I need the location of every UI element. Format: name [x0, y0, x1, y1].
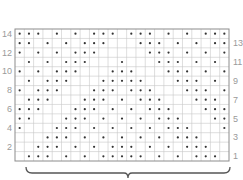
stitch-dot — [112, 146, 114, 148]
stitch-dot — [84, 108, 86, 110]
stitch-dot — [140, 33, 142, 35]
row-label-left: 14 — [2, 29, 12, 39]
stitch-dot — [56, 80, 58, 82]
stitch-dot — [177, 61, 179, 63]
stitch-dot — [186, 70, 188, 72]
stitch-dot — [140, 136, 142, 138]
stitch-dot — [102, 42, 104, 44]
stitch-dot — [19, 127, 21, 129]
stitch-dot — [195, 136, 197, 138]
stitch-dot — [37, 108, 39, 110]
stitch-dot — [84, 117, 86, 119]
stitch-dot — [112, 80, 114, 82]
row-label-left: 10 — [2, 66, 12, 76]
stitch-dot — [186, 51, 188, 53]
stitch-dot — [158, 99, 160, 101]
row-label-right: 13 — [233, 38, 243, 48]
stitch-dot — [84, 42, 86, 44]
stitch-dot — [167, 51, 169, 53]
stitch-dot — [214, 80, 216, 82]
stitch-dot — [158, 108, 160, 110]
stitch-dot — [37, 155, 39, 157]
stitch-dot — [56, 89, 58, 91]
stitch-dot — [167, 33, 169, 35]
stitch-dot — [102, 99, 104, 101]
repeat-brace — [26, 167, 230, 178]
stitch-dot — [177, 117, 179, 119]
stitch-dot — [214, 155, 216, 157]
stitch-dot — [223, 117, 225, 119]
stitch-dot — [205, 51, 207, 53]
stitch-dot — [46, 146, 48, 148]
stitch-dot — [28, 33, 30, 35]
stitch-dot — [19, 42, 21, 44]
stitch-dot — [140, 155, 142, 157]
stitch-dot — [121, 136, 123, 138]
row-label-right: 3 — [233, 132, 238, 142]
stitch-dot — [56, 127, 58, 129]
stitch-dot — [56, 51, 58, 53]
stitch-dot — [37, 89, 39, 91]
stitch-dot — [19, 89, 21, 91]
stitch-dot — [223, 33, 225, 35]
stitch-dot — [205, 89, 207, 91]
stitch-dot — [93, 89, 95, 91]
stitch-dot — [37, 99, 39, 101]
stitch-dot — [28, 61, 30, 63]
stitch-dot — [102, 136, 104, 138]
stitch-dot — [28, 80, 30, 82]
stitch-dot — [56, 146, 58, 148]
stitch-dot — [112, 89, 114, 91]
stitch-dot — [74, 117, 76, 119]
stitch-dot — [195, 80, 197, 82]
stitch-dot — [140, 89, 142, 91]
stitch-dot — [84, 155, 86, 157]
stitch-dot — [149, 33, 151, 35]
stitch-dot — [28, 108, 30, 110]
stitch-dot — [37, 33, 39, 35]
stitch-dot — [93, 127, 95, 129]
row-label-right: 1 — [233, 151, 238, 161]
stitch-dot — [46, 99, 48, 101]
stitch-dot — [214, 99, 216, 101]
stitch-dot — [186, 33, 188, 35]
stitch-dot — [65, 155, 67, 157]
stitch-dot — [112, 33, 114, 35]
stitch-dot — [214, 117, 216, 119]
stitch-dot — [121, 80, 123, 82]
stitch-dot — [149, 99, 151, 101]
stitch-dot — [149, 146, 151, 148]
stitch-dot — [56, 136, 58, 138]
stitch-dot — [74, 127, 76, 129]
stitch-dot — [167, 117, 169, 119]
stitch-dot — [214, 42, 216, 44]
stitch-dot — [214, 61, 216, 63]
stitch-dot — [195, 99, 197, 101]
row-label-left: 8 — [7, 85, 12, 95]
stitch-dot — [19, 51, 21, 53]
stitch-dot — [102, 89, 104, 91]
stitch-dot — [65, 70, 67, 72]
stitch-dot — [65, 117, 67, 119]
row-label-left: 2 — [7, 142, 12, 152]
stitch-dot — [19, 70, 21, 72]
stitch-dot — [112, 108, 114, 110]
stitch-dot — [140, 117, 142, 119]
stitch-dot — [195, 61, 197, 63]
stitch-dot — [130, 127, 132, 129]
stitch-dot — [19, 33, 21, 35]
stitch-dot — [19, 108, 21, 110]
stitch-dot — [65, 80, 67, 82]
stitch-dot — [84, 99, 86, 101]
stitch-dot — [56, 70, 58, 72]
stitch-dot — [28, 117, 30, 119]
stitch-dot — [56, 33, 58, 35]
stitch-dot — [223, 42, 225, 44]
stitch-dot — [46, 80, 48, 82]
stitch-dot — [121, 146, 123, 148]
stitch-dot — [93, 51, 95, 53]
stitch-dot — [121, 99, 123, 101]
stitch-dot — [74, 108, 76, 110]
row-label-right: 11 — [233, 57, 242, 67]
stitch-dot — [93, 108, 95, 110]
